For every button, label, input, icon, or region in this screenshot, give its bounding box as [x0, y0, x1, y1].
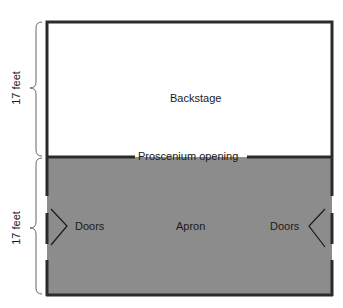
backstage-walls: [47, 22, 332, 157]
apron-label: Apron: [176, 220, 205, 232]
bottom-dimension-brace: [30, 158, 42, 294]
backstage-label: Backstage: [170, 92, 221, 104]
doors-right-label: Doors: [270, 220, 299, 232]
top-dimension-brace: [30, 22, 42, 156]
doors-left-label: Doors: [75, 220, 104, 232]
proscenium-label: Proscenium opening: [138, 150, 238, 162]
top-dimension-label: 17 feet: [10, 68, 22, 108]
bottom-dimension-label: 17 feet: [10, 208, 22, 248]
